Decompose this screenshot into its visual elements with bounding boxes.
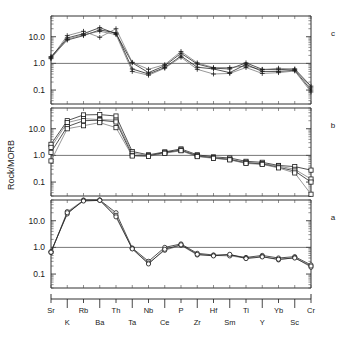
data-point-square bbox=[179, 149, 183, 153]
x-tick-label-K: K bbox=[65, 318, 70, 327]
data-point-square bbox=[49, 150, 53, 154]
data-point-square bbox=[163, 151, 167, 155]
data-point-square bbox=[81, 124, 85, 128]
data-point-square bbox=[98, 121, 102, 125]
data-point-square bbox=[276, 166, 280, 170]
y-tick-label: 1.0 bbox=[33, 150, 45, 160]
y-tick-label: 10.0 bbox=[28, 124, 45, 134]
data-point-circle bbox=[293, 256, 297, 260]
y-tick-label: 0.1 bbox=[33, 269, 45, 279]
x-tick-label-Sm: Sm bbox=[224, 318, 235, 327]
data-point-square bbox=[65, 127, 69, 131]
data-point-square bbox=[195, 155, 199, 159]
x-tick-label-Ta: Ta bbox=[128, 318, 137, 327]
data-point-square bbox=[146, 154, 150, 158]
data-point-circle bbox=[260, 255, 264, 259]
data-point-circle bbox=[81, 199, 85, 203]
data-point-square bbox=[309, 192, 313, 196]
x-tick-label-Ba: Ba bbox=[95, 318, 105, 327]
data-point-circle bbox=[114, 215, 118, 219]
data-point-circle bbox=[244, 257, 248, 261]
x-tick-label-Ti: Ti bbox=[243, 306, 249, 315]
x-tick-label-Sr: Sr bbox=[47, 306, 55, 315]
data-point-circle bbox=[146, 262, 150, 266]
data-point-square bbox=[81, 119, 85, 123]
data-point-square bbox=[228, 158, 232, 162]
data-point-square bbox=[65, 121, 69, 125]
data-point-square bbox=[114, 120, 118, 124]
x-tick-label-Zr: Zr bbox=[194, 318, 202, 327]
y-tick-label: 10.0 bbox=[28, 216, 45, 226]
data-point-circle bbox=[49, 250, 53, 254]
data-point-circle bbox=[309, 264, 313, 268]
x-tick-label-Cr: Cr bbox=[307, 306, 315, 315]
panel-label-b: b bbox=[331, 121, 336, 130]
data-point-square bbox=[293, 171, 297, 175]
y-tick-label: 0.1 bbox=[33, 177, 45, 187]
x-tick-label-Nb: Nb bbox=[144, 306, 154, 315]
data-point-square bbox=[114, 114, 118, 118]
x-tick-label-P: P bbox=[178, 306, 183, 315]
spider-diagram-svg: 10.01.00.1c10.01.00.1b10.01.00.1a SrKRbB… bbox=[0, 0, 349, 339]
data-point-square bbox=[98, 112, 102, 116]
data-point-square bbox=[130, 154, 134, 158]
data-point-circle bbox=[130, 247, 134, 251]
y-tick-label: 1.0 bbox=[33, 242, 45, 252]
x-tick-label-Sc: Sc bbox=[290, 318, 299, 327]
figure-container: 10.01.00.1c10.01.00.1b10.01.00.1a SrKRbB… bbox=[0, 0, 349, 339]
x-tick-label-Hf: Hf bbox=[210, 306, 218, 315]
data-point-square bbox=[114, 126, 118, 130]
data-point-circle bbox=[65, 211, 69, 215]
x-tick-label-Th: Th bbox=[112, 306, 121, 315]
x-tick-label-Rb: Rb bbox=[79, 306, 89, 315]
y-tick-label: 10.0 bbox=[28, 32, 45, 42]
data-point-circle bbox=[163, 247, 167, 251]
x-tick-label-Ce: Ce bbox=[160, 318, 170, 327]
data-point-circle bbox=[211, 254, 215, 258]
data-point-square bbox=[49, 145, 53, 149]
panel-label-c: c bbox=[331, 29, 335, 38]
data-point-circle bbox=[98, 198, 102, 202]
panel-label-a: a bbox=[331, 213, 336, 222]
data-point-circle bbox=[179, 243, 183, 247]
data-point-square bbox=[244, 161, 248, 165]
data-point-circle bbox=[228, 252, 232, 256]
data-point-square bbox=[309, 168, 313, 172]
data-point-square bbox=[260, 162, 264, 166]
data-point-square bbox=[211, 156, 215, 160]
x-tick-label-Yb: Yb bbox=[274, 306, 283, 315]
data-point-circle bbox=[276, 257, 280, 261]
y-tick-label: 1.0 bbox=[33, 58, 45, 68]
y-tick-label: 0.1 bbox=[33, 85, 45, 95]
data-point-circle bbox=[195, 252, 199, 256]
x-tick-label-Y: Y bbox=[260, 318, 265, 327]
data-point-square bbox=[309, 180, 313, 184]
data-point-square bbox=[49, 159, 53, 163]
y-axis-title: Rock/MORB bbox=[6, 140, 16, 190]
